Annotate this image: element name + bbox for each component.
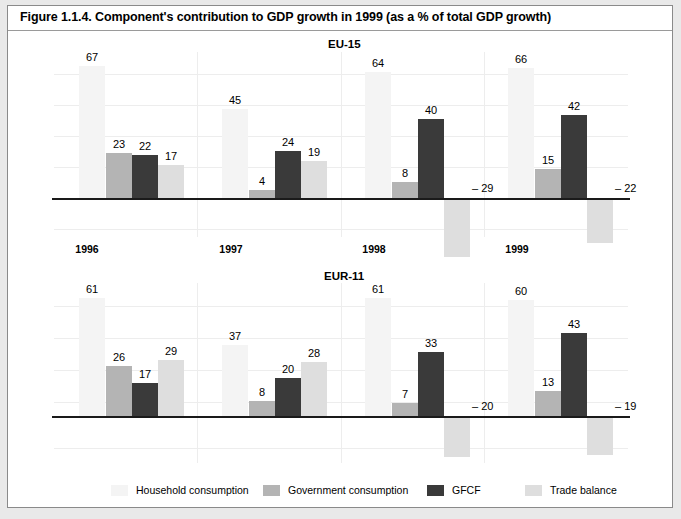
- bar-value-household-1997: 45: [215, 94, 255, 106]
- legend-item-household: Household consumption: [111, 482, 249, 498]
- bar-value-household-1999: 60: [501, 285, 541, 297]
- bar-trade-1998: [444, 200, 470, 257]
- legend-label-household: Household consumption: [136, 484, 249, 496]
- x-tick-1996: 1996: [57, 243, 117, 255]
- bar-trade-1998: [444, 418, 470, 457]
- figure-frame: Figure 1.1.4. Component's contribution t…: [7, 5, 673, 508]
- legend-item-gfcf: GFCF: [427, 482, 481, 498]
- bar-value-government-1998: 8: [385, 167, 425, 179]
- bar-value-gfcf-1998: 40: [411, 104, 451, 116]
- x-tick-1999: 1999: [487, 243, 547, 255]
- bar-government-1996: [106, 153, 132, 198]
- gridline-vertical: [484, 283, 485, 463]
- bar-household-1999: [508, 68, 534, 198]
- gridline-vertical: [341, 52, 342, 237]
- legend-label-trade: Trade balance: [550, 484, 617, 496]
- legend-label-government: Government consumption: [288, 484, 408, 496]
- legend-swatch-government-icon: [263, 485, 280, 496]
- bar-government-1997: [249, 190, 275, 198]
- bar-value-government-1999: 13: [528, 376, 568, 388]
- bar-household-1996: [79, 66, 105, 198]
- gridline-vertical: [197, 283, 198, 463]
- bar-government-1997: [249, 401, 275, 416]
- bar-value-household-1998: 61: [358, 283, 398, 295]
- gridline-vertical: [341, 283, 342, 463]
- chart-title-eu15: EU-15: [328, 38, 361, 50]
- x-tick-1998: 1998: [344, 243, 404, 255]
- bar-trade-1999: [587, 418, 613, 455]
- bar-trade-1996: [158, 165, 184, 198]
- bar-value-trade-1998: – 29: [472, 182, 516, 194]
- figure-title: Figure 1.1.4. Component's contribution t…: [20, 10, 551, 24]
- bar-government-1998: [392, 182, 418, 198]
- legend-swatch-household-icon: [111, 485, 128, 496]
- legend-swatch-gfcf-icon: [427, 485, 444, 496]
- bar-value-trade-1999: – 19: [615, 400, 659, 412]
- zero-baseline: [52, 416, 630, 418]
- gridline-vertical: [484, 52, 485, 237]
- bar-value-gfcf-1996: 17: [125, 368, 165, 380]
- bar-gfcf-1998: [418, 119, 444, 198]
- bar-value-trade-1996: 29: [151, 345, 191, 357]
- plot-area-eu15: 67 23 22 17 45 4 24 19 64 8: [54, 52, 628, 237]
- x-tick-1997: 1997: [201, 243, 261, 255]
- chart-legend: Household consumption Government consump…: [8, 478, 674, 508]
- bar-value-household-1996: 61: [72, 283, 112, 295]
- bar-value-government-1997: 4: [242, 175, 282, 187]
- bar-value-household-1999: 66: [501, 53, 541, 65]
- bar-value-trade-1998: – 20: [472, 400, 516, 412]
- bar-value-household-1998: 64: [358, 57, 398, 69]
- bar-value-trade-1997: 19: [294, 146, 334, 158]
- bar-value-government-1996: 26: [99, 351, 139, 363]
- bar-value-household-1997: 37: [215, 330, 255, 342]
- bar-value-government-1998: 7: [385, 388, 425, 400]
- figure-root: Figure 1.1.4. Component's contribution t…: [0, 0, 681, 519]
- bar-value-gfcf-1997: 20: [268, 363, 308, 375]
- bar-trade-1997: [301, 161, 327, 198]
- legend-swatch-trade-icon: [525, 485, 542, 496]
- chart-panel-eur11: EUR-11 61 26 1: [8, 265, 674, 478]
- bar-value-government-1997: 8: [242, 386, 282, 398]
- bar-government-1998: [392, 403, 418, 416]
- chart-title-eur11: EUR-11: [324, 270, 364, 282]
- plot-area-eur11: 61 26 17 29 37 8 20 28 61 7: [54, 283, 628, 463]
- bar-value-household-1996: 67: [72, 51, 112, 63]
- bar-gfcf-1998: [418, 352, 444, 416]
- bar-government-1999: [535, 169, 561, 198]
- bar-trade-1999: [587, 200, 613, 243]
- bar-value-gfcf-1998: 33: [411, 337, 451, 349]
- bar-value-trade-1997: 28: [294, 347, 334, 359]
- bar-value-trade-1999: – 22: [615, 182, 659, 194]
- bar-value-government-1999: 15: [528, 154, 568, 166]
- bar-value-trade-1996: 17: [151, 150, 191, 162]
- gridline-vertical: [197, 52, 198, 237]
- bar-government-1999: [535, 391, 561, 416]
- legend-item-trade: Trade balance: [525, 482, 617, 498]
- bar-gfcf-1996: [132, 383, 158, 416]
- bar-value-gfcf-1999: 43: [554, 318, 594, 330]
- zero-baseline: [52, 198, 630, 200]
- figure-title-bar: Figure 1.1.4. Component's contribution t…: [8, 6, 672, 31]
- bar-household-1997: [222, 345, 248, 416]
- chart-panel-eu15: EU-15 67 23 22: [8, 32, 674, 265]
- legend-item-government: Government consumption: [263, 482, 408, 498]
- bar-household-1998: [365, 72, 391, 198]
- bar-value-gfcf-1999: 42: [554, 100, 594, 112]
- bar-household-1999: [508, 300, 534, 416]
- legend-label-gfcf: GFCF: [452, 484, 481, 496]
- bar-gfcf-1999: [561, 333, 587, 416]
